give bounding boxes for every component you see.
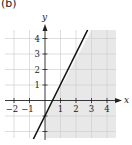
x-tick-label: 1 (58, 104, 63, 114)
y-tick-label: 3 (35, 49, 40, 59)
y-tick-label: 2 (35, 65, 40, 75)
y-axis-arrow-icon (43, 24, 48, 31)
y-tick-label: 4 (35, 34, 40, 44)
y-tick-label: 1 (35, 80, 40, 90)
x-axis-arrow-icon (115, 98, 122, 103)
shaded-region (45, 30, 116, 138)
x-tick-label: 3 (89, 104, 94, 114)
x-axis-label: x (124, 95, 129, 105)
y-axis-label: y (41, 12, 48, 22)
x-tick-label: 4 (104, 104, 109, 114)
x-tick-label: 2 (73, 104, 78, 114)
x-tick-label: −1 (21, 104, 34, 114)
x-tick-label: −2 (6, 104, 19, 114)
inequality-graph: x y −2 −1 1 2 3 4 1 2 3 4 (0, 0, 132, 145)
